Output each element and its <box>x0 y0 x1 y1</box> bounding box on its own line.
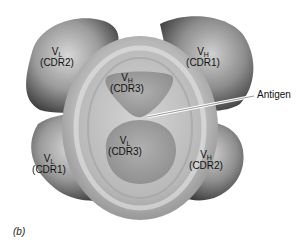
label-vh-cdr1: VH (CDR1) <box>182 46 224 68</box>
label-vh-cdr3: VH (CDR3) <box>106 72 148 94</box>
label-vh-cdr2: VH (CDR2) <box>185 149 227 171</box>
antibody-cdr-diagram <box>0 0 300 247</box>
label-vl-cdr2: VL (CDR2) <box>36 46 78 68</box>
antigen-label: Antigen <box>257 89 291 100</box>
label-vl-cdr1: VL (CDR1) <box>28 153 70 175</box>
label-vl-cdr3: VL (CDR3) <box>104 135 146 157</box>
panel-label: (b) <box>13 226 25 237</box>
